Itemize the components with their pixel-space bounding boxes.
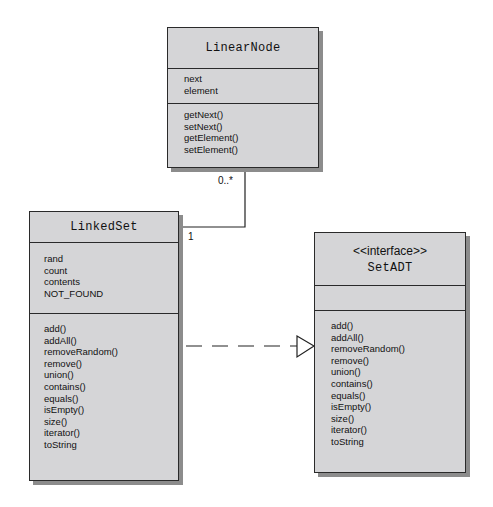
attribute: element: [184, 85, 318, 97]
method: setNext(): [184, 121, 318, 133]
method: removeRandom(): [331, 343, 465, 355]
method: equals(): [44, 393, 178, 405]
method: removeRandom(): [44, 346, 178, 358]
multiplicity-one-label: 1: [188, 231, 194, 242]
method: toString: [331, 436, 465, 448]
class-header: <<interface>> SetADT: [315, 233, 465, 286]
method: setElement(): [184, 144, 318, 156]
class-name: SetADT: [367, 261, 412, 275]
methods-section: add() addAll() removeRandom() remove() u…: [315, 311, 465, 448]
method: add(): [331, 320, 465, 332]
method: size(): [44, 416, 178, 428]
methods-section: add() addAll() removeRandom() remove() u…: [30, 314, 178, 451]
method: remove(): [331, 355, 465, 367]
class-linked-set[interactable]: LinkedSet rand count contents NOT_FOUND …: [29, 211, 179, 481]
attribute: NOT_FOUND: [44, 288, 178, 300]
class-set-adt[interactable]: <<interface>> SetADT add() addAll() remo…: [314, 232, 466, 473]
class-linear-node[interactable]: LinearNode next element getNext() setNex…: [167, 27, 319, 168]
attributes-section-empty: [315, 286, 465, 311]
class-header: LinkedSet: [30, 212, 178, 243]
attributes-section: next element: [168, 69, 318, 104]
class-name: LinkedSet: [70, 220, 138, 234]
method: getNext(): [184, 109, 318, 121]
methods-section: getNext() setNext() getElement() setElem…: [168, 104, 318, 155]
stereotype-label: <<interface>>: [353, 244, 427, 258]
method: add(): [44, 323, 178, 335]
method: iterator(): [331, 424, 465, 436]
attribute: count: [44, 265, 178, 277]
method: union(): [44, 369, 178, 381]
method: isEmpty(): [331, 401, 465, 413]
method: contains(): [331, 378, 465, 390]
method: getElement(): [184, 132, 318, 144]
method: isEmpty(): [44, 404, 178, 416]
method: remove(): [44, 358, 178, 370]
class-header: LinearNode: [168, 28, 318, 69]
method: equals(): [331, 390, 465, 402]
method: addAll(): [44, 335, 178, 347]
multiplicity-many-label: 0..*: [218, 175, 233, 186]
method: union(): [331, 366, 465, 378]
attribute: contents: [44, 276, 178, 288]
attribute: rand: [44, 253, 178, 265]
attributes-section: rand count contents NOT_FOUND: [30, 243, 178, 314]
method: addAll(): [331, 332, 465, 344]
class-name: LinearNode: [205, 41, 280, 55]
association-line: [178, 167, 245, 227]
method: size(): [331, 413, 465, 425]
method: contains(): [44, 381, 178, 393]
method: toString: [44, 439, 178, 451]
realization-triangle-arrowhead: [297, 336, 314, 357]
method: iterator(): [44, 427, 178, 439]
attribute: next: [184, 73, 318, 85]
